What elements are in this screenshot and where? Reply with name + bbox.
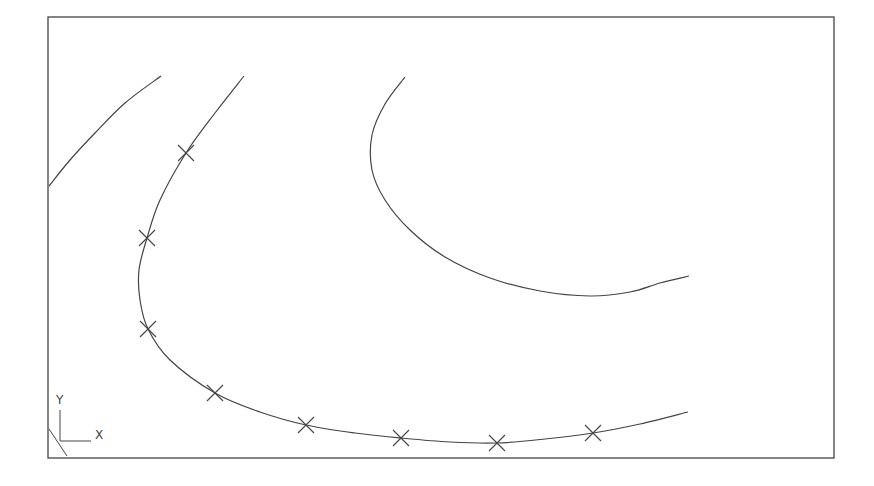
left-curve[interactable] [49,76,161,186]
fit-point-x-marker-icon[interactable] [207,385,223,401]
ucs-diagonal [49,429,67,456]
fit-point-x-marker-icon[interactable] [140,321,156,337]
fit-point-x-marker-icon[interactable] [178,145,194,161]
ucs-y-label: Y [55,393,64,407]
ucs-icon: Y X [49,393,103,456]
fit-point-markers [139,145,601,451]
curves-layer [49,76,689,443]
fit-point-x-marker-icon[interactable] [298,417,314,433]
ucs-x-label: X [95,428,103,442]
viewport-border [48,17,834,458]
drawing-canvas[interactable]: Y X [0,0,874,486]
fit-point-x-marker-icon[interactable] [139,230,155,246]
right-curve[interactable] [370,77,689,296]
middle-curve-fitted-spline[interactable] [138,76,688,443]
fit-point-x-marker-icon[interactable] [585,425,601,441]
